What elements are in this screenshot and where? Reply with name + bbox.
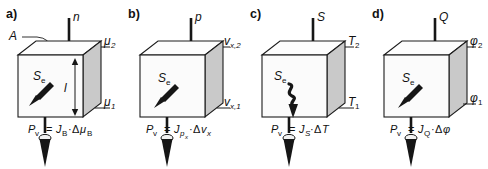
input-quantity-label: n bbox=[73, 10, 80, 24]
lower-potential-sub: 1 bbox=[111, 102, 115, 111]
cube-side-face bbox=[327, 41, 345, 117]
cube-side-face bbox=[449, 41, 467, 117]
area-label: A bbox=[8, 29, 17, 43]
panel-d-drawing: d) Q S e φ 2 φ 1 P v = J Q · Δ bbox=[366, 0, 488, 169]
eq-potential-sub: x bbox=[206, 129, 212, 138]
output-arrowhead bbox=[40, 139, 51, 167]
entropy-sub: e bbox=[282, 76, 287, 85]
cube-side-face bbox=[205, 41, 223, 117]
lower-potential-label: μ bbox=[103, 95, 111, 109]
input-quantity-label: Q bbox=[439, 10, 448, 24]
panel-letter: c) bbox=[250, 7, 261, 21]
delta-symbol: Δ bbox=[435, 123, 443, 135]
cube-front-face bbox=[140, 55, 205, 117]
entropy-label: S bbox=[274, 69, 282, 83]
eq-potential: μ bbox=[79, 123, 86, 135]
lower-potential-label: φ bbox=[470, 91, 478, 105]
lower-potential-sub: 1 bbox=[355, 102, 360, 111]
power-sub: v bbox=[397, 129, 401, 138]
panel-d: d) Q S e φ 2 φ 1 P v = J Q · Δ bbox=[366, 0, 488, 169]
input-quantity-label: S bbox=[317, 10, 325, 24]
flux-symbol: J bbox=[173, 123, 180, 135]
output-arrowhead bbox=[406, 139, 417, 167]
entropy-sub: e bbox=[41, 76, 46, 85]
panel-letter: d) bbox=[372, 7, 384, 21]
flux-symbol: J bbox=[417, 123, 424, 135]
entropy-label: S bbox=[402, 71, 410, 85]
cube-front-face bbox=[384, 55, 449, 117]
power-sub: v bbox=[278, 129, 282, 138]
panel-c-drawing: c) S S e T 2 T 1 P v = J S · Δ bbox=[244, 0, 366, 169]
panel-b-drawing: b) p S e v x,2 v x,1 P v = J p x · bbox=[122, 0, 244, 169]
flux-sub: Q bbox=[424, 129, 430, 138]
entropy-sub: e bbox=[166, 78, 171, 87]
lower-potential-sub: 1 bbox=[478, 98, 483, 107]
panel-c: c) S S e T 2 T 1 P v = J S · Δ bbox=[244, 0, 366, 169]
entropy-label: S bbox=[33, 69, 41, 83]
equals-sign: = bbox=[46, 123, 52, 135]
delta-symbol: Δ bbox=[72, 123, 80, 135]
upper-potential-sub: 2 bbox=[355, 41, 360, 50]
entropy-sub: e bbox=[410, 78, 415, 87]
eq-potential: T bbox=[322, 123, 330, 135]
lower-potential-sub: x,1 bbox=[229, 102, 241, 111]
panel-b: b) p S e v x,2 v x,1 P v = J p x · bbox=[122, 0, 244, 169]
output-arrowhead bbox=[284, 139, 295, 167]
flux-sub: B bbox=[62, 129, 67, 138]
delta-symbol: Δ bbox=[193, 123, 201, 135]
flux-symbol: J bbox=[55, 123, 62, 135]
delta-symbol: Δ bbox=[314, 123, 322, 135]
cube-side-face bbox=[83, 41, 101, 117]
panel-letter: a) bbox=[6, 7, 17, 21]
upper-potential-label: μ bbox=[103, 34, 111, 48]
upper-potential-sub: 2 bbox=[110, 41, 116, 50]
flux-symbol: J bbox=[298, 123, 305, 135]
panel-a: a) n A l S e μ bbox=[0, 0, 122, 169]
output-arrowhead bbox=[162, 139, 173, 167]
upper-potential-sub: x,2 bbox=[229, 41, 241, 50]
transport-analogy-figure: a) n A l S e μ bbox=[0, 0, 488, 169]
eq-potential-sub: B bbox=[87, 129, 92, 138]
panel-a-drawing: a) n A l S e μ bbox=[0, 0, 122, 169]
power-sub: v bbox=[35, 129, 39, 138]
length-label: l bbox=[64, 81, 67, 95]
input-quantity-label: p bbox=[194, 10, 202, 24]
upper-potential-label: φ bbox=[470, 34, 478, 48]
entropy-label: S bbox=[158, 71, 166, 85]
upper-potential-sub: 2 bbox=[478, 41, 483, 50]
power-sub: v bbox=[153, 129, 157, 138]
panel-letter: b) bbox=[128, 7, 140, 21]
eq-potential: φ bbox=[443, 123, 450, 135]
